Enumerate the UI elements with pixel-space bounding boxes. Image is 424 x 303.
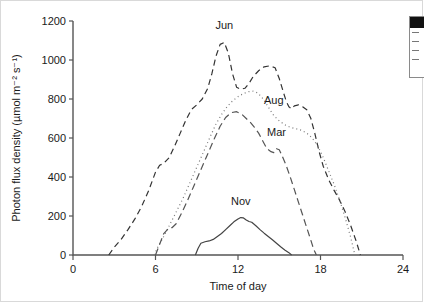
series-label-nov: Nov — [231, 195, 251, 207]
x-axis-title: Time of day — [209, 280, 267, 292]
legend-panel[interactable] — [409, 16, 424, 78]
y-tick-label: 1200 — [42, 15, 66, 27]
legend-swatch — [412, 59, 419, 60]
legend-swatch — [412, 50, 419, 51]
series-line-jun — [109, 42, 361, 255]
y-tick-label: 1000 — [42, 54, 66, 66]
legend-row[interactable] — [410, 46, 424, 55]
legend-panel-header — [410, 17, 424, 28]
x-tick-label: 24 — [397, 263, 409, 275]
y-tick-label: 400 — [48, 171, 66, 183]
x-tick-label: 18 — [314, 263, 326, 275]
legend-row[interactable] — [410, 55, 424, 64]
x-tick-label: 6 — [152, 263, 158, 275]
series-label-jun: Jun — [215, 19, 233, 31]
legend-row[interactable] — [410, 28, 424, 37]
figure-container: 02004006008001000120006121824Time of day… — [0, 0, 424, 303]
legend-row[interactable] — [410, 37, 424, 46]
y-tick-label: 200 — [48, 210, 66, 222]
series-line-aug — [154, 91, 355, 255]
legend-swatch — [412, 32, 419, 33]
x-tick-label: 12 — [232, 263, 244, 275]
y-axis-title: Photon flux density (µmol m⁻² s⁻¹) — [10, 54, 22, 222]
series-label-aug: Aug — [264, 94, 284, 106]
x-tick-label: 0 — [70, 263, 76, 275]
series-label-mar: Mar — [267, 126, 286, 138]
y-tick-label: 600 — [48, 132, 66, 144]
legend-swatch — [412, 41, 419, 42]
axis-frame — [73, 21, 403, 255]
y-tick-label: 800 — [48, 93, 66, 105]
series-line-nov — [195, 218, 291, 255]
chart-plot: 02004006008001000120006121824Time of day… — [0, 0, 424, 303]
y-tick-label: 0 — [60, 249, 66, 261]
